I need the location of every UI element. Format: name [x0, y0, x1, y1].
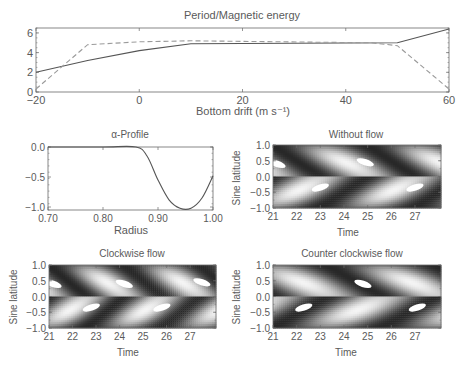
x-tick-label: 27: [409, 211, 421, 222]
x-tick-label: 26: [386, 331, 398, 342]
x-tick-label: 24: [114, 331, 126, 342]
x-tick-label: 25: [138, 331, 150, 342]
x-tick-label: 0.70: [38, 213, 58, 224]
y-axis-label: Sine latitude: [231, 269, 242, 324]
x-tick-label: 22: [291, 331, 303, 342]
x-tick-label: 26: [161, 331, 173, 342]
x-tick-label: 26: [386, 211, 398, 222]
x-tick-label: 23: [315, 211, 327, 222]
x-tick-label: 25: [362, 331, 374, 342]
without-flow-panel: Without flow 212223242526271.00.50.0−0.5…: [231, 129, 441, 238]
x-tick-label: 24: [338, 211, 350, 222]
x-tick-label: 23: [90, 331, 102, 342]
period-line: [36, 29, 449, 72]
y-tick-label: 2: [27, 66, 33, 78]
y-tick-label: −0.5: [25, 172, 45, 183]
panel-title: Clockwise flow: [99, 248, 165, 259]
x-tick-label: 0.90: [148, 213, 168, 224]
y-tick-label: 1.0: [256, 260, 270, 271]
alpha-profile-panel: α-Profile 0.700.800.901.000.0−0.5−1.0 Ra…: [25, 129, 223, 236]
y-axis-label: Sine latitude: [231, 150, 242, 205]
y-tick-label: −1.0: [26, 323, 46, 334]
y-tick-label: 0.0: [31, 142, 45, 153]
x-tick-label: 40: [340, 94, 352, 106]
y-tick-label: 0: [27, 86, 33, 98]
clockwise-flow-panel: Clockwise flow 212223242526271.00.50.0−0…: [8, 248, 216, 358]
figure: Period/Magnetic energy −2002040600246 Bo…: [0, 0, 463, 374]
y-tick-label: 1.0: [32, 260, 46, 271]
y-tick-label: 0.5: [32, 276, 46, 287]
x-tick-label: 24: [338, 331, 350, 342]
x-axis-label: Radius: [114, 224, 149, 236]
x-tick-label: 60: [443, 94, 455, 106]
y-tick-label: 0.0: [256, 172, 270, 183]
plot-frame: [48, 147, 213, 210]
x-axis-label: Bottom drift (m s⁻¹): [196, 105, 290, 117]
y-tick-label: 6: [27, 27, 33, 39]
period-energy-panel: Period/Magnetic energy −2002040600246 Bo…: [27, 9, 455, 117]
x-tick-label: 27: [409, 331, 421, 342]
y-axis-label: Sine latitude: [8, 269, 19, 324]
x-tick-label: 22: [291, 211, 303, 222]
x-axis-label: Time: [337, 227, 359, 238]
y-tick-label: −1.0: [250, 203, 270, 214]
y-tick-label: −0.5: [250, 307, 270, 318]
butterfly-diagram: 212223242526271.00.50.0−0.5−1.0: [26, 260, 216, 342]
x-axis-label: Time: [117, 347, 139, 358]
x-tick-label: 27: [185, 331, 197, 342]
magnetic-energy-line: [36, 41, 449, 89]
plot-frame: [36, 28, 449, 92]
y-tick-label: 0.0: [32, 292, 46, 303]
y-tick-label: −1.0: [250, 323, 270, 334]
counter-clockwise-flow-panel: Counter clockwise flow 212223242526271.0…: [231, 248, 441, 358]
butterfly-diagram: 212223242526271.00.50.0−0.5−1.0: [250, 140, 441, 222]
y-tick-label: 1.0: [256, 140, 270, 151]
x-tick-label: 0.80: [93, 213, 113, 224]
y-tick-label: −1.0: [25, 202, 45, 213]
x-axis-label: Time: [335, 347, 357, 358]
x-tick-label: 25: [362, 211, 374, 222]
y-tick-label: −0.5: [26, 307, 46, 318]
panel-title: Counter clockwise flow: [301, 248, 403, 259]
y-tick-label: 0.0: [256, 292, 270, 303]
panel-title: α-Profile: [111, 129, 149, 140]
x-tick-label: 23: [315, 331, 327, 342]
butterfly-diagram: 212223242526271.00.50.0−0.5−1.0: [250, 260, 441, 342]
x-tick-label: 0: [136, 94, 142, 106]
y-tick-label: −0.5: [250, 187, 270, 198]
x-tick-label: 1.00: [203, 213, 223, 224]
panel-title: Period/Magnetic energy: [184, 9, 301, 21]
y-tick-label: 0.5: [256, 156, 270, 167]
y-tick-label: 0.5: [256, 276, 270, 287]
plot-area: 0.700.800.901.000.0−0.5−1.0: [25, 142, 223, 224]
alpha-curve: [48, 146, 213, 209]
panel-title: Without flow: [329, 129, 384, 140]
plot-area: −2002040600246: [27, 27, 455, 106]
y-tick-label: 4: [27, 47, 33, 59]
x-tick-label: 22: [67, 331, 79, 342]
